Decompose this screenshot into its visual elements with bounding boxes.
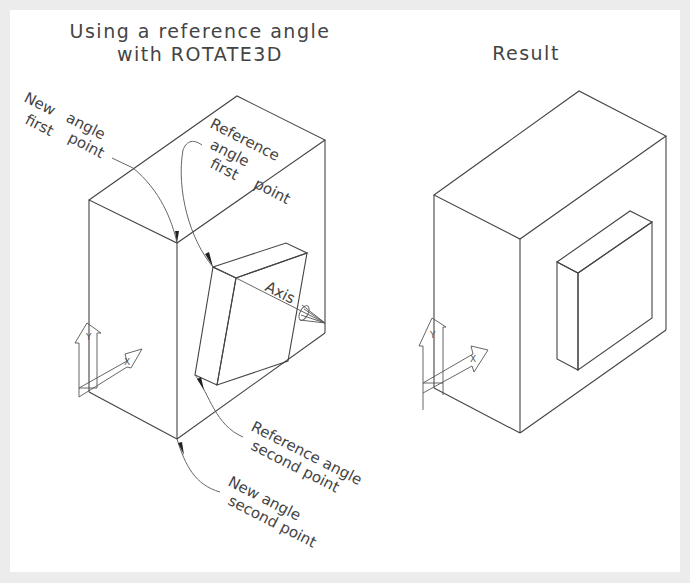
rotation-axis: Axis xyxy=(236,278,325,323)
svg-text:point: point xyxy=(251,175,293,208)
axis-label: Axis xyxy=(262,278,298,308)
ucs-y-label-right: Y xyxy=(429,330,436,340)
right-title: Result xyxy=(492,42,560,64)
label-new-angle-first-point: New angle first point xyxy=(21,89,108,162)
result-plate xyxy=(557,211,652,370)
left-box xyxy=(89,96,325,439)
label-reference-angle-first-point: Reference angle first point xyxy=(207,115,293,208)
left-title-line2: with ROTATE3D xyxy=(117,43,283,65)
diagram-canvas: Using a reference angle with ROTATE3D Re… xyxy=(0,0,690,583)
ucs-icon-left: Y X xyxy=(75,323,142,397)
ucs-icon-right: Y X xyxy=(419,318,488,410)
label-reference-angle-second-point: Reference angle second point xyxy=(248,418,365,497)
right-box xyxy=(434,91,666,433)
ucs-x-label-right: X xyxy=(470,354,476,364)
left-title-line1: Using a reference angle xyxy=(70,20,331,42)
label-new-angle-second-point: New angle second point xyxy=(225,473,319,552)
ucs-y-label: Y xyxy=(85,332,92,342)
ucs-x-label: X xyxy=(124,357,130,367)
axis-cone-icon xyxy=(297,304,325,323)
